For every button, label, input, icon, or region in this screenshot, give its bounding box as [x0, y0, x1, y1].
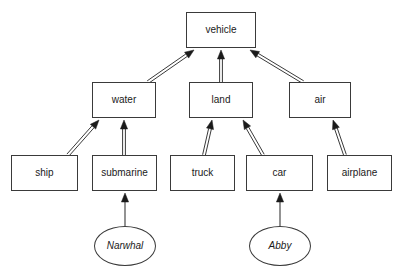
node-air[interactable]: air	[289, 82, 351, 118]
edge-shaft	[205, 129, 211, 155]
edge-land-vehicle[interactable]	[217, 50, 224, 82]
edge-airplane-air[interactable]	[333, 120, 347, 155]
node-label-abby: Abby	[269, 241, 292, 251]
arrowhead-water-vehicle	[185, 50, 194, 58]
edge-shaft	[249, 127, 265, 154]
arrowhead-submarine-water	[120, 120, 127, 129]
node-abby[interactable]: Abby	[249, 226, 311, 266]
node-label-car: car	[273, 168, 287, 178]
edge-shaft	[149, 56, 188, 83]
node-label-narwhal: Narwhal	[107, 241, 144, 251]
arrowhead-ship-water	[90, 120, 99, 129]
edge-air-vehicle[interactable]	[250, 50, 304, 83]
edge-shaft	[69, 128, 94, 156]
node-car[interactable]: car	[246, 155, 313, 191]
node-water[interactable]: water	[92, 82, 156, 118]
node-label-submarine: submarine	[101, 168, 148, 178]
node-label-air: air	[314, 95, 325, 105]
arrowhead-truck-land	[206, 120, 213, 130]
node-truck[interactable]: truck	[170, 155, 235, 191]
node-label-airplane: airplane	[342, 168, 378, 178]
node-ship[interactable]: ship	[11, 155, 78, 191]
edge-ship-water[interactable]	[67, 120, 99, 156]
diagram-canvas: vehiclewaterlandairshipsubmarinetruckcar…	[0, 0, 400, 279]
arrowhead-land-vehicle	[217, 50, 224, 59]
edge-shaft	[335, 129, 344, 155]
edge-submarine-water[interactable]	[120, 120, 127, 155]
node-submarine[interactable]: submarine	[92, 155, 157, 191]
edge-car-land[interactable]	[243, 120, 264, 156]
edge-water-vehicle[interactable]	[147, 50, 194, 83]
edge-truck-land[interactable]	[203, 120, 214, 155]
edge-shaft	[147, 54, 186, 81]
node-airplane[interactable]: airplane	[327, 155, 392, 191]
node-label-vehicle: vehicle	[205, 25, 236, 35]
edge-shaft	[257, 56, 302, 83]
node-label-ship: ship	[35, 168, 53, 178]
node-narwhal[interactable]: Narwhal	[94, 226, 156, 266]
arrowhead-car-land	[243, 120, 251, 130]
edge-shaft	[203, 128, 209, 154]
node-label-truck: truck	[192, 168, 214, 178]
arrowhead-air-vehicle	[250, 50, 260, 58]
node-land[interactable]: land	[189, 82, 253, 118]
edge-shaft	[258, 53, 303, 80]
arrowhead-narwhal-submarine	[121, 193, 128, 202]
arrowhead-abby-car	[276, 193, 283, 202]
node-label-water: water	[112, 95, 136, 105]
edge-shaft	[246, 129, 262, 156]
node-vehicle[interactable]: vehicle	[186, 12, 256, 48]
edge-abby-car[interactable]	[276, 193, 283, 226]
arrowhead-airplane-air	[333, 120, 340, 130]
node-label-land: land	[212, 95, 231, 105]
edge-shaft	[337, 128, 346, 154]
edge-shaft	[67, 126, 92, 154]
edge-narwhal-submarine[interactable]	[121, 193, 128, 226]
